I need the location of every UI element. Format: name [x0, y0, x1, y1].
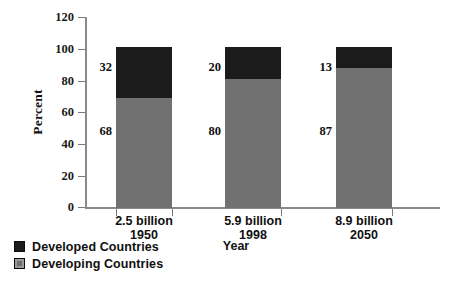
bar-value-developed-1: 32: [86, 61, 112, 74]
legend-label-developing: Developing Countries: [32, 257, 163, 271]
y-tick-40: [78, 144, 85, 145]
y-tick-100: [78, 49, 85, 50]
y-tick-label-120: 120: [40, 11, 74, 24]
bar-stack-1: [116, 47, 172, 208]
bar-segment-developing-3: [336, 68, 392, 208]
bar-value-developed-2: 20: [195, 61, 221, 74]
bar-value-developing-3: 87: [306, 125, 332, 138]
x-category-year-3: 2050: [350, 228, 378, 242]
y-tick-label-60: 60: [40, 106, 74, 119]
x-category-population-2: 5.9 billion: [224, 214, 282, 228]
y-tick-label-80: 80: [40, 75, 74, 88]
legend-label-developed: Developed Countries: [32, 240, 159, 254]
chart-legend: Developed Countries Developing Countries: [14, 238, 163, 272]
y-tick-label-20: 20: [40, 170, 74, 183]
y-tick-label-100: 100: [40, 43, 74, 56]
dark-square-icon: [14, 241, 25, 252]
y-tick-label-40: 40: [40, 138, 74, 151]
y-tick-0: [78, 207, 85, 208]
bar-segment-developed-2: [225, 47, 281, 79]
bar-stack-2: [225, 47, 281, 208]
x-category-label-2: 5.9 billion 1998: [213, 214, 293, 242]
bar-value-developing-1: 68: [86, 125, 112, 138]
legend-item-developed: Developed Countries: [14, 238, 163, 255]
gray-square-icon: [14, 258, 25, 269]
y-axis-line: [85, 17, 87, 208]
bar-stack-3: [336, 47, 392, 208]
y-tick-60: [78, 112, 85, 113]
stacked-bar-chart: Percent 120 100 80 60 40 20 0 32 68 2.5 …: [0, 0, 461, 281]
bar-segment-developed-3: [336, 47, 392, 68]
bar-segment-developed-1: [116, 47, 172, 98]
y-tick-120: [78, 17, 85, 18]
x-category-population-3: 8.9 billion: [335, 214, 393, 228]
y-tick-label-0: 0: [40, 201, 74, 214]
bar-segment-developing-2: [225, 79, 281, 208]
bar-value-developing-2: 80: [195, 125, 221, 138]
bar-value-developed-3: 13: [306, 61, 332, 74]
x-category-population-1: 2.5 billion: [115, 214, 173, 228]
x-axis-title: Year: [196, 239, 276, 253]
bar-segment-developing-1: [116, 98, 172, 208]
y-tick-80: [78, 81, 85, 82]
y-tick-20: [78, 176, 85, 177]
x-category-label-3: 8.9 billion 2050: [324, 214, 404, 242]
legend-item-developing: Developing Countries: [14, 255, 163, 272]
